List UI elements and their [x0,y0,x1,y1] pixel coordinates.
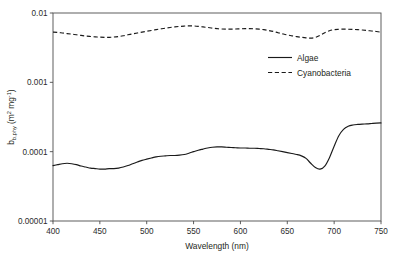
legend-label-algae: Algae [297,53,319,63]
y-axis-title-units-open: (m [6,114,16,126]
plot-frame [53,13,381,221]
y-tick-label-0.00001: 0.00001 [18,217,48,226]
x-tick-label-450: 450 [93,227,107,236]
series-line-algae [53,123,381,169]
x-tick-label-600: 600 [234,227,248,236]
x-axis-title-text: Wavelength (nm) [185,241,249,251]
y-axis-title: bb,phy (m2 mg-1) [6,89,17,145]
y-axis-title-units-close: ) [6,89,16,92]
x-axis-ticks [53,221,381,224]
y-tick-label-0.0001: 0.0001 [22,148,47,157]
x-tick-label-500: 500 [140,227,154,236]
x-tick-label-550: 550 [187,227,201,236]
y-axis-ticks [50,13,53,221]
legend: Algae Cyanobacteria [268,53,351,78]
chart-canvas: 400450500550600650700750 0.010.0010.0001… [0,0,395,260]
y-axis-title-subscript: b,phy [11,126,17,140]
chart-figure: 400450500550600650700750 0.010.0010.0001… [0,0,395,260]
legend-label-cyanobacteria: Cyanobacteria [297,68,351,78]
series-line-cyanobacteria [53,26,381,38]
x-tick-label-650: 650 [280,227,294,236]
x-axis-title: Wavelength (nm) [185,241,249,251]
series-layer [53,26,381,169]
y-axis-title-units-mid: mg [6,97,16,111]
y-axis-title-text: bb,phy (m2 mg-1) [6,89,17,145]
y-tick-label-0.01: 0.01 [32,9,48,18]
y-axis-tick-labels: 0.010.0010.00010.00001 [18,9,48,226]
y-tick-label-0.001: 0.001 [27,78,48,87]
x-tick-label-400: 400 [46,227,60,236]
x-axis-tick-labels: 400450500550600650700750 [46,227,388,236]
x-tick-label-700: 700 [327,227,341,236]
x-tick-label-750: 750 [374,227,388,236]
